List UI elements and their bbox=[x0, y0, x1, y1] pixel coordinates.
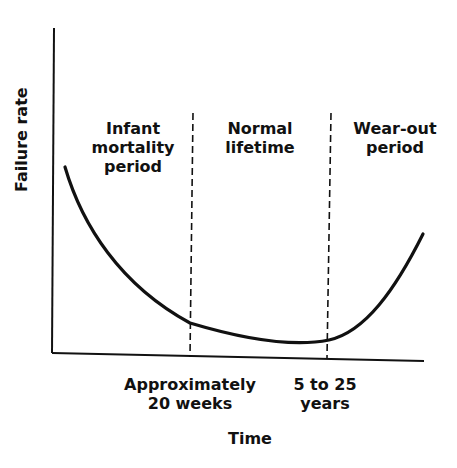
x-axis-label: Time bbox=[200, 429, 300, 448]
tick-label-20-weeks: Approximately 20 weeks bbox=[110, 375, 270, 413]
y-axis bbox=[52, 28, 54, 353]
region-label-infant-mortality: Infant mortality period bbox=[78, 119, 188, 176]
region-label-wear-out: Wear-out period bbox=[340, 119, 450, 157]
tick-label-5-25-years: 5 to 25 years bbox=[270, 375, 380, 413]
boundary-line-20-weeks bbox=[190, 113, 193, 357]
failure-rate-curve bbox=[65, 167, 423, 343]
boundary-line-5-25-years bbox=[327, 113, 331, 358]
y-axis-label: Failure rate bbox=[12, 87, 31, 192]
region-label-normal-lifetime: Normal lifetime bbox=[205, 119, 315, 157]
x-axis bbox=[52, 353, 424, 361]
